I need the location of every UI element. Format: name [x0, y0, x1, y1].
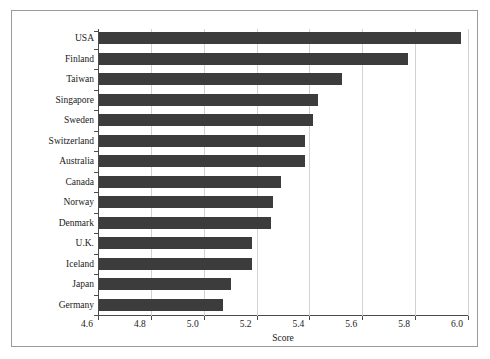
x-axis-tick-label: 5.6 [331, 319, 371, 329]
category-label: Norway [14, 196, 94, 208]
y-axis-tick [94, 192, 98, 193]
gridline [257, 29, 258, 316]
category-label: Singapore [14, 94, 94, 106]
x-axis-tick-label: 5.8 [384, 319, 424, 329]
category-label: Sweden [14, 114, 94, 126]
bar [99, 155, 305, 167]
gridline [204, 29, 205, 316]
y-axis-tick [94, 213, 98, 214]
category-label: Finland [14, 53, 94, 65]
chart-page: USAFinlandTaiwanSingaporeSwedenSwitzerla… [0, 0, 490, 359]
category-label: USA [14, 32, 94, 44]
bar [99, 53, 408, 65]
x-axis-tick-label: 5.0 [173, 319, 213, 329]
bar [99, 237, 252, 249]
category-label: Taiwan [14, 73, 94, 85]
y-axis-tick [94, 131, 98, 132]
gridline [362, 29, 363, 316]
y-axis-tick [94, 274, 98, 275]
bar [99, 278, 231, 290]
category-label: U.K. [14, 237, 94, 249]
bar [99, 135, 305, 147]
gridline [309, 29, 310, 316]
x-axis-tick-label: 4.8 [120, 319, 160, 329]
y-axis-tick [94, 110, 98, 111]
y-axis-tick [94, 151, 98, 152]
x-axis-tick-label: 5.4 [278, 319, 318, 329]
x-axis-line [98, 315, 468, 316]
category-label: Denmark [14, 217, 94, 229]
category-label: Canada [14, 176, 94, 188]
y-axis-tick [94, 90, 98, 91]
category-label: Germany [14, 299, 94, 311]
y-axis-tick [94, 69, 98, 70]
bar [99, 258, 252, 270]
bar [99, 217, 271, 229]
x-axis-tick-label: 4.6 [67, 319, 107, 329]
y-axis-tick [94, 254, 98, 255]
y-axis-tick [94, 172, 98, 173]
category-label: Australia [14, 155, 94, 167]
plot-area [98, 29, 468, 316]
category-axis-labels: USAFinlandTaiwanSingaporeSwedenSwitzerla… [12, 29, 94, 316]
y-axis-tick [94, 31, 98, 32]
category-label: Iceland [14, 258, 94, 270]
bar [99, 196, 273, 208]
x-axis-tick-label: 5.2 [226, 319, 266, 329]
y-axis-tick [94, 233, 98, 234]
category-label: Switzerland [14, 135, 94, 147]
bar [99, 73, 342, 85]
bar [99, 94, 318, 106]
y-axis-tick [94, 295, 98, 296]
x-axis-tick-label: 6.0 [437, 319, 477, 329]
x-axis-title: Score [98, 333, 468, 343]
figure-frame: USAFinlandTaiwanSingaporeSwedenSwitzerla… [11, 10, 478, 347]
bar [99, 32, 461, 44]
gridline [415, 29, 416, 316]
y-axis-tick [94, 49, 98, 50]
gridline [468, 29, 469, 316]
bar [99, 299, 223, 311]
gridline [151, 29, 152, 316]
y-axis-line [98, 29, 99, 316]
bar [99, 176, 281, 188]
bar [99, 114, 313, 126]
category-label: Japan [14, 278, 94, 290]
